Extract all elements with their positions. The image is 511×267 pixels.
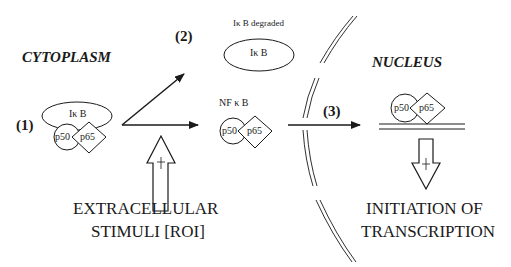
step-1-label: (1) <box>16 117 34 134</box>
arrow-to-ikb-degraded <box>122 74 184 125</box>
step-3-label: (3) <box>323 103 341 120</box>
p50-label: p50 <box>55 131 70 142</box>
transcription-caption-line1: INITIATION OF <box>366 199 483 218</box>
step-2-label: (2) <box>175 28 193 45</box>
p50-label: p50 <box>222 125 237 136</box>
stimuli-caption-line1: EXTRACELLULAR <box>73 199 219 218</box>
cytoplasm-label: CYTOPLASM <box>22 49 112 65</box>
ikb-degraded-text: Iκ B <box>250 47 268 58</box>
transcription-caption-line2: TRANSCRIPTION <box>361 222 495 241</box>
p65-label: p65 <box>419 102 434 113</box>
nuclear-membrane <box>303 16 357 262</box>
p50-label: p50 <box>394 102 409 113</box>
stimuli-caption-line2: STIMULI [ROI] <box>91 222 205 241</box>
nfkb-pathway-diagram: CYTOPLASM NUCLEUS (1) Iκ B p50 p65 EXTRA… <box>0 0 511 267</box>
ikb-label: Iκ B <box>69 108 87 119</box>
p65-label: p65 <box>247 125 262 136</box>
ikb-degraded-label: Iκ B degraded <box>233 18 285 28</box>
nfkb-label: NF κ B <box>219 97 249 108</box>
nucleus-label: NUCLEUS <box>371 54 442 70</box>
p65-label: p65 <box>80 131 95 142</box>
